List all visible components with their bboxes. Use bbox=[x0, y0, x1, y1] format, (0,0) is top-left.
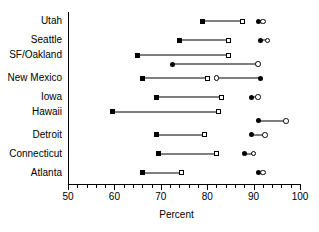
connector-square-4 bbox=[156, 97, 221, 98]
y-axis-label-seattle: Seattle bbox=[31, 35, 62, 45]
x-tick-major bbox=[207, 185, 208, 190]
marker-open-square bbox=[202, 132, 207, 137]
x-axis-title: Percent bbox=[0, 209, 319, 220]
y-axis-label-sf-oakland: SF/Oakland bbox=[9, 50, 62, 60]
x-tick-minor bbox=[96, 185, 97, 188]
connector-square-8 bbox=[142, 172, 181, 173]
marker-open-circle bbox=[262, 132, 268, 138]
marker-open-circle bbox=[251, 151, 257, 157]
connector-square-5 bbox=[112, 111, 219, 112]
marker-open-circle bbox=[265, 38, 271, 44]
x-tick-minor bbox=[281, 185, 282, 188]
marker-filled-square bbox=[140, 76, 145, 81]
x-tick-label-100: 100 bbox=[292, 191, 309, 202]
x-tick-minor bbox=[189, 185, 190, 188]
plot-area bbox=[68, 12, 300, 182]
x-tick-minor bbox=[291, 185, 292, 188]
connector-circle-5 bbox=[258, 120, 286, 121]
marker-open-square bbox=[226, 53, 231, 58]
x-tick-minor bbox=[244, 185, 245, 188]
x-tick-major bbox=[114, 185, 115, 190]
marker-filled-circle bbox=[258, 38, 263, 43]
connector-square-3 bbox=[142, 78, 207, 79]
marker-filled-circle bbox=[256, 118, 261, 123]
connector-circle-2 bbox=[172, 64, 258, 65]
marker-filled-square bbox=[154, 95, 159, 100]
marker-filled-square bbox=[200, 19, 205, 24]
x-tick-label-70: 70 bbox=[155, 191, 166, 202]
marker-filled-square bbox=[156, 151, 161, 156]
marker-open-square bbox=[226, 38, 231, 43]
x-tick-minor bbox=[179, 185, 180, 188]
marker-open-square bbox=[216, 109, 221, 114]
x-tick-minor bbox=[124, 185, 125, 188]
connector-square-1 bbox=[179, 40, 228, 41]
connector-square-0 bbox=[203, 21, 242, 22]
marker-open-square bbox=[205, 76, 210, 81]
x-tick-minor bbox=[226, 185, 227, 188]
marker-filled-square bbox=[154, 132, 159, 137]
x-tick-minor bbox=[77, 185, 78, 188]
marker-open-circle bbox=[255, 94, 261, 100]
x-tick-label-60: 60 bbox=[109, 191, 120, 202]
x-tick-minor bbox=[142, 185, 143, 188]
y-axis-label-utah: Utah bbox=[41, 16, 62, 26]
x-tick-minor bbox=[105, 185, 106, 188]
marker-filled-square bbox=[177, 38, 182, 43]
x-tick-minor bbox=[235, 185, 236, 188]
marker-filled-square bbox=[140, 170, 145, 175]
x-tick-minor bbox=[152, 185, 153, 188]
x-tick-minor bbox=[272, 185, 273, 188]
y-axis-label-hawaii: Hawaii bbox=[32, 107, 62, 117]
connector-square-7 bbox=[158, 153, 216, 154]
dot-plot-chart: UtahSeattleSF/OaklandNew MexicoIowaHawai… bbox=[0, 0, 319, 232]
marker-open-square bbox=[214, 151, 219, 156]
marker-filled-circle bbox=[258, 76, 263, 81]
x-tick-label-90: 90 bbox=[248, 191, 259, 202]
x-axis-title-text: Percent bbox=[125, 209, 193, 220]
marker-open-square bbox=[179, 170, 184, 175]
x-tick-major bbox=[68, 185, 69, 190]
marker-open-circle bbox=[260, 170, 266, 176]
marker-filled-circle bbox=[170, 62, 175, 67]
connector-square-6 bbox=[156, 134, 205, 135]
marker-filled-circle bbox=[249, 95, 254, 100]
y-axis-label-atlanta: Atlanta bbox=[31, 168, 62, 178]
marker-filled-circle bbox=[249, 132, 254, 137]
x-axis-line bbox=[68, 184, 301, 185]
connector-circle-3 bbox=[216, 78, 260, 79]
x-tick-major bbox=[300, 185, 301, 190]
marker-open-square bbox=[219, 95, 224, 100]
x-tick-minor bbox=[198, 185, 199, 188]
x-tick-minor bbox=[170, 185, 171, 188]
marker-open-square bbox=[240, 19, 245, 24]
marker-open-circle bbox=[260, 19, 266, 25]
y-axis-label-new-mexico: New Mexico bbox=[8, 73, 62, 83]
x-tick-major bbox=[254, 185, 255, 190]
x-tick-label-80: 80 bbox=[202, 191, 213, 202]
x-tick-label-50: 50 bbox=[62, 191, 73, 202]
marker-open-circle bbox=[283, 118, 289, 124]
x-tick-minor bbox=[133, 185, 134, 188]
x-tick-minor bbox=[263, 185, 264, 188]
y-axis-category-labels: UtahSeattleSF/OaklandNew MexicoIowaHawai… bbox=[0, 0, 66, 232]
marker-open-circle bbox=[255, 61, 261, 67]
y-axis-label-detroit: Detroit bbox=[33, 130, 62, 140]
x-tick-minor bbox=[216, 185, 217, 188]
x-tick-major bbox=[161, 185, 162, 190]
connector-square-2 bbox=[138, 55, 228, 56]
marker-filled-square bbox=[110, 109, 115, 114]
y-axis-label-connecticut: Connecticut bbox=[9, 149, 62, 159]
marker-open-circle bbox=[214, 75, 220, 81]
marker-filled-square bbox=[135, 53, 140, 58]
marker-filled-circle bbox=[242, 151, 247, 156]
y-axis-label-iowa: Iowa bbox=[41, 92, 62, 102]
x-tick-minor bbox=[87, 185, 88, 188]
